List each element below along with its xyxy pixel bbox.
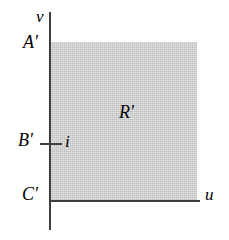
c-prime-label: C′: [22, 185, 38, 203]
b-prime-label: B′: [18, 131, 33, 149]
figure-canvas: v u A′ B′ C′ i R′: [0, 0, 229, 240]
u-axis-label: u: [205, 186, 214, 203]
v-axis-label: v: [36, 8, 44, 25]
a-prime-label: A′: [23, 33, 38, 51]
b-prime-tick-mark: [40, 143, 62, 145]
v-axis-line: [49, 12, 51, 230]
tick-value-label: i: [65, 133, 70, 150]
region-label-r-prime: R′: [119, 103, 134, 121]
u-axis-line: [50, 200, 200, 202]
